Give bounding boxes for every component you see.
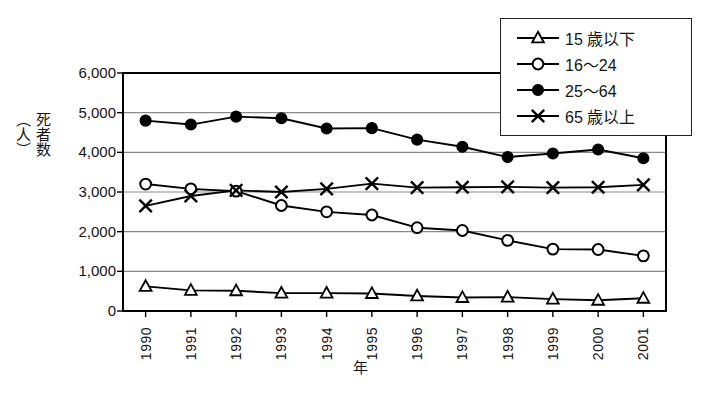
x-axis-tick-label: 1999 [545,327,561,360]
legend-item: 65 歳以上 [501,103,691,129]
marker-open-circle [533,59,544,70]
series-line [146,184,644,206]
data-point [547,148,558,159]
data-point [140,280,152,291]
marker-filled-circle [412,134,423,145]
legend-label: 16～24 [565,52,617,76]
marker-filled-circle [547,148,558,159]
legend-item: 15 歳以下 [501,25,691,51]
line-chart: 死者数 （人） 01,0002,0003,0004,0005,0006,000 … [0,0,713,406]
marker-open-circle [638,250,649,261]
marker-filled-circle [276,113,287,124]
legend-marker [533,59,544,70]
data-point [366,123,377,134]
marker-open-circle [593,244,604,255]
x-axis-tick-label: 1996 [409,327,425,360]
marker-open-circle [547,244,558,255]
series-markers-3 [139,177,649,212]
legend-marker [533,85,544,96]
marker-filled-circle [638,153,649,164]
data-point [276,113,287,124]
x-axis-tick-label: 2001 [635,327,651,360]
legend-marker-open-triangle-icon [515,27,561,49]
legend-label: 15 歳以下 [565,26,635,50]
data-point [140,179,151,190]
marker-filled-circle [533,85,544,96]
data-point [276,200,287,211]
x-axis-tick-label: 1997 [454,327,470,360]
marker-open-circle [140,179,151,190]
marker-open-circle [412,222,423,233]
data-point [593,244,604,255]
data-point [412,222,423,233]
legend-label: 65 歳以上 [565,104,635,128]
data-point [321,206,332,217]
marker-filled-circle [502,152,513,163]
x-axis-tick-label: 1993 [273,327,289,360]
series-3 [146,184,644,206]
data-point [366,210,377,221]
data-point [185,119,196,130]
x-axis-tick-label: 1990 [138,327,154,360]
legend-marker-filled-circle-icon [515,79,561,101]
data-point [457,141,468,152]
marker-filled-circle [366,123,377,134]
data-point [140,115,151,126]
data-point [593,144,604,155]
marker-open-circle [366,210,377,221]
marker-filled-circle [140,115,151,126]
marker-open-circle [457,225,468,236]
marker-open-triangle [140,280,152,291]
x-axis-tick-label: 1998 [500,327,516,360]
marker-filled-circle [593,144,604,155]
data-point [321,123,332,134]
data-point [412,134,423,145]
marker-filled-circle [457,141,468,152]
data-point [638,250,649,261]
legend-item: 16～24 [501,51,691,77]
marker-filled-circle [185,119,196,130]
data-point [502,235,513,246]
marker-filled-circle [231,111,242,122]
x-axis-tick-label: 2000 [590,327,606,360]
marker-open-triangle [637,292,649,303]
series-1 [146,184,644,256]
series-0 [146,286,644,300]
legend-marker-cross-x-icon [515,105,561,127]
data-point [637,292,649,303]
x-axis-tick-label: 1992 [228,327,244,360]
marker-open-circle [276,200,287,211]
series-line [146,286,644,300]
x-axis-tick-label: 1991 [183,327,199,360]
data-point [502,152,513,163]
legend-marker-open-circle-icon [515,53,561,75]
marker-filled-circle [321,123,332,134]
marker-open-circle [502,235,513,246]
series-markers-0 [140,280,650,305]
marker-open-circle [321,206,332,217]
data-point [547,244,558,255]
legend-item: 25～64 [501,77,691,103]
chart-legend: 15 歳以下16～2425～6465 歳以上 [500,18,692,136]
data-point [231,111,242,122]
legend-label: 25～64 [565,78,617,102]
data-point [457,225,468,236]
x-axis-tick-labels: 1990199119921993199419951996199719981999… [0,316,713,360]
x-axis-title: 年 [330,356,390,377]
data-point [638,153,649,164]
series-line [146,184,644,256]
